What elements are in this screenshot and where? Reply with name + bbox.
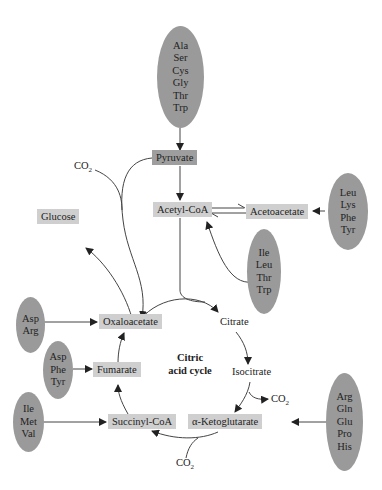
amino-acid: Tyr: [341, 224, 355, 237]
node-acetoacetate: Acetoacetate: [246, 204, 308, 219]
amino-acid: Arg: [336, 391, 352, 404]
amino-acid-group-acetoacetate: Leu Lys Phe Tyr: [328, 173, 368, 250]
node-glucose: Glucose: [37, 209, 79, 224]
node-citrate: Citrate: [220, 316, 249, 327]
co2-label-isocitrate: CO2: [271, 393, 289, 407]
amino-acid: Phe: [50, 364, 66, 377]
amino-acid: Thr: [256, 272, 271, 285]
node-isocitrate: Isocitrate: [232, 366, 271, 377]
amino-acid: Trp: [173, 102, 188, 115]
node-pyruvate: Pyruvate: [152, 150, 197, 165]
node-fumarate: Fumarate: [93, 362, 141, 377]
amino-acid: Glu: [337, 416, 353, 429]
cycle-label-line1: Citric: [160, 351, 220, 364]
amino-acid: Ile: [258, 247, 269, 260]
amino-acid: Asp: [50, 351, 67, 364]
co2-label-alpha-ketoglutarate: CO2: [176, 457, 194, 471]
node-acetyl-coa: Acetyl-CoA: [153, 202, 212, 217]
amino-acid: Pro: [337, 428, 352, 441]
amino-acid: Ser: [174, 52, 188, 65]
amino-acid: Val: [22, 428, 36, 441]
amino-acid: His: [337, 441, 352, 454]
amino-acid: Gly: [173, 77, 189, 90]
co2-label-pyruvate: CO2: [74, 160, 92, 174]
amino-acid: Leu: [340, 187, 356, 200]
cycle-label-line2: acid cycle: [160, 364, 220, 377]
amino-acid-group-oxaloacetate: Asp Arg: [16, 297, 45, 353]
amino-acid-group-acetyl-coa: Ile Leu Thr Trp: [247, 229, 281, 314]
amino-acid: Asp: [22, 313, 39, 326]
amino-acid: Ile: [23, 403, 34, 416]
node-alpha-ketoglutarate: α-Ketoglutarate: [188, 414, 262, 429]
amino-acid-group-alpha-ketoglutarate: Arg Gln Glu Pro His: [326, 373, 363, 471]
amino-acid: Ala: [173, 40, 188, 53]
amino-acid: Thr: [173, 90, 188, 103]
cycle-label: Citric acid cycle: [160, 351, 220, 377]
amino-acid: Arg: [22, 325, 38, 338]
amino-acid-group-succinyl-coa: Ile Met Val: [13, 392, 44, 452]
node-oxaloacetate: Oxaloacetate: [99, 314, 162, 329]
amino-acid-group-fumarate: Asp Phe Tyr: [43, 341, 73, 399]
amino-acid-group-pyruvate: Ala Ser Cys Gly Thr Trp: [157, 26, 204, 128]
amino-acid: Met: [20, 416, 37, 429]
amino-acid: Tyr: [51, 376, 65, 389]
amino-acid: Trp: [257, 284, 272, 297]
amino-acid: Phe: [340, 212, 356, 225]
amino-acid: Leu: [256, 259, 272, 272]
node-succinyl-coa: Succinyl-CoA: [108, 414, 176, 429]
amino-acid: Lys: [340, 199, 355, 212]
amino-acid: Gln: [337, 403, 353, 416]
amino-acid: Cys: [172, 65, 188, 78]
